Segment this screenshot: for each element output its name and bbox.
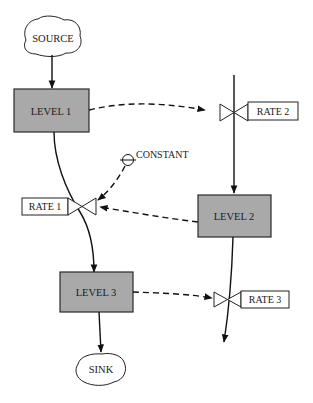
flow-level3-to-sink <box>99 312 101 352</box>
rate2-label: RATE 2 <box>257 106 290 117</box>
flow-level2-to-bottom <box>224 237 233 342</box>
rate2-valve: RATE 2 <box>220 102 298 121</box>
info-constant-to-rate1 <box>98 166 125 200</box>
level2-box: LEVEL 2 <box>198 195 271 237</box>
rate3-valve: RATE 3 <box>214 291 289 308</box>
rate1-label: RATE 1 <box>29 201 62 212</box>
level3-label: LEVEL 3 <box>76 287 117 298</box>
rate1-valve: RATE 1 <box>22 198 96 215</box>
source-label: SOURCE <box>32 33 73 44</box>
info-level2-to-rate1 <box>100 207 198 222</box>
constant-node: CONSTANT <box>120 149 189 166</box>
level1-box: LEVEL 1 <box>14 89 89 132</box>
info-level1-to-rate2 <box>89 104 205 110</box>
rate3-label: RATE 3 <box>249 294 282 305</box>
source-cloud: SOURCE <box>24 16 81 56</box>
level2-label: LEVEL 2 <box>214 211 255 222</box>
level1-label: LEVEL 1 <box>31 106 72 117</box>
info-level3-to-rate3 <box>133 292 212 298</box>
sink-label: SINK <box>89 364 114 375</box>
sink-cloud: SINK <box>76 353 126 385</box>
level3-box: LEVEL 3 <box>60 272 133 312</box>
stock-flow-diagram: SOURCE LEVEL 1 RATE 2 CONSTANT RATE 1 LE… <box>0 0 313 403</box>
constant-label: CONSTANT <box>136 149 189 160</box>
